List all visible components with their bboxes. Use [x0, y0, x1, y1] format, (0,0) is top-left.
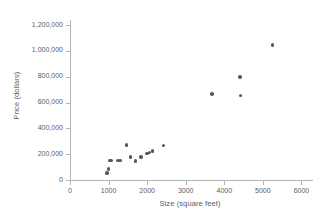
x-axis-tick: [224, 181, 225, 185]
scatter-chart: Price (dollars) Size (square feet) 0200,…: [0, 0, 329, 216]
x-axis-tick-label: 3000: [166, 187, 206, 194]
x-axis-tick: [109, 181, 110, 185]
data-point: [210, 92, 214, 96]
data-point: [238, 75, 242, 79]
data-point: [110, 159, 114, 163]
x-axis-tick-label: 1000: [89, 187, 129, 194]
data-point: [239, 94, 243, 98]
data-point: [105, 171, 109, 175]
y-axis-tick-label: 1,000,000: [3, 46, 63, 53]
data-point: [118, 159, 122, 163]
x-axis-tick: [301, 181, 302, 185]
y-axis-tick: [66, 77, 70, 78]
x-axis-tick-label: 0: [50, 187, 90, 194]
data-point: [107, 167, 111, 171]
data-point: [162, 144, 166, 148]
y-axis-tick: [66, 51, 70, 52]
x-axis-tick: [70, 181, 71, 185]
y-axis-tick: [66, 154, 70, 155]
plot-area: [0, 0, 329, 216]
x-axis-tick-label: 5000: [243, 187, 283, 194]
y-axis-tick-label: 400,000: [3, 124, 63, 131]
data-point: [125, 143, 129, 147]
data-point: [129, 155, 133, 159]
x-axis-tick-label: 6000: [281, 187, 321, 194]
x-axis-tick-label: 2000: [127, 187, 167, 194]
x-axis-tick: [186, 181, 187, 185]
y-axis-tick-label: 1,200,000: [3, 21, 63, 28]
y-axis-tick-label: 200,000: [3, 150, 63, 157]
y-axis-tick: [66, 25, 70, 26]
y-axis-tick-label: 600,000: [3, 98, 63, 105]
x-axis-tick-label: 4000: [204, 187, 244, 194]
data-point: [271, 43, 275, 47]
data-point: [151, 149, 155, 153]
y-axis-tick-label: 800,000: [3, 72, 63, 79]
data-point: [139, 155, 143, 159]
x-axis-tick: [263, 181, 264, 185]
y-axis-tick-label: 0: [3, 176, 63, 183]
y-axis-tick: [66, 128, 70, 129]
x-axis-tick: [147, 181, 148, 185]
y-axis-tick: [66, 103, 70, 104]
data-point: [134, 159, 138, 163]
